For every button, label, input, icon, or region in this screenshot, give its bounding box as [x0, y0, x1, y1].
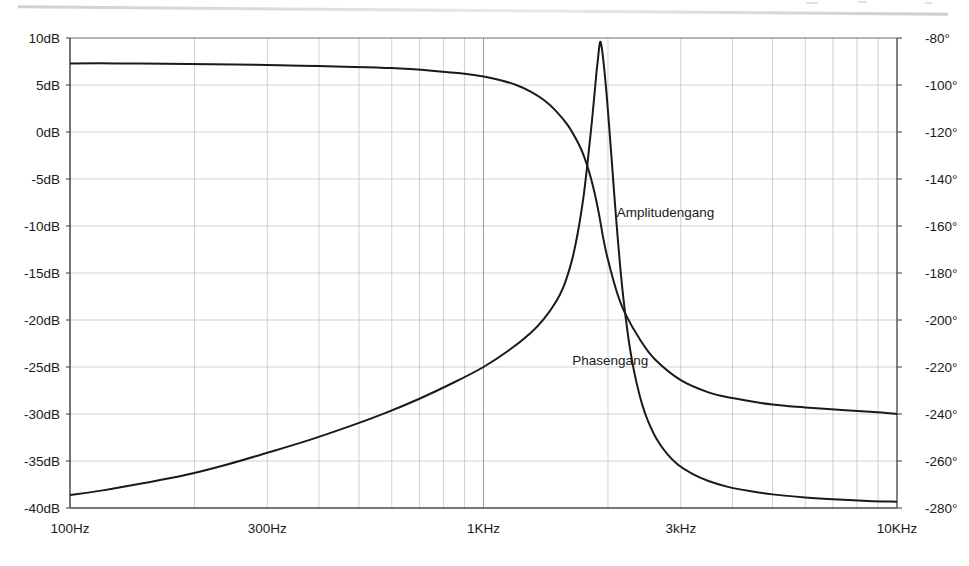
bode-plot-figure: 10dB5dB0dB-5dB-10dB-15dB-20dB-25dB-30dB-… — [0, 0, 969, 566]
right-tick-label: -260° — [925, 454, 957, 469]
x-tick-label: 3kHz — [665, 521, 696, 536]
left-tick-label: -20dB — [24, 313, 60, 328]
left-tick-label: 5dB — [36, 78, 60, 93]
left-tick-label: -25dB — [24, 360, 60, 375]
left-tick-label: 0dB — [36, 125, 60, 140]
right-tick-label: -200° — [925, 313, 957, 328]
right-tick-label: -180° — [925, 266, 957, 281]
left-tick-label: -40dB — [24, 501, 60, 516]
right-tick-label: -80° — [925, 31, 950, 46]
x-tick-label: 300Hz — [248, 521, 287, 536]
right-tick-label: -160° — [925, 219, 957, 234]
x-tick-label: 10KHz — [877, 521, 918, 536]
x-tick-label: 100Hz — [50, 521, 89, 536]
left-tick-label: 10dB — [28, 31, 60, 46]
left-tick-label: -15dB — [24, 266, 60, 281]
left-tick-label: -5dB — [31, 172, 60, 187]
right-tick-label: -220° — [925, 360, 957, 375]
right-tick-label: -240° — [925, 407, 957, 422]
left-tick-label: -30dB — [24, 407, 60, 422]
right-tick-label: -280° — [925, 501, 957, 516]
amplitude-curve-label: Amplitudengang — [617, 205, 715, 220]
right-tick-label: -120° — [925, 125, 957, 140]
x-tick-label: 1KHz — [467, 521, 500, 536]
x-axis-tick-labels: 100Hz300Hz1KHz3kHz10KHz — [50, 521, 917, 536]
left-tick-label: -10dB — [24, 219, 60, 234]
left-axis-tick-labels: 10dB5dB0dB-5dB-10dB-15dB-20dB-25dB-30dB-… — [24, 31, 60, 516]
phase-curve-label: Phasengang — [572, 353, 648, 368]
right-tick-label: -140° — [925, 172, 957, 187]
bode-plot-canvas: 10dB5dB0dB-5dB-10dB-15dB-20dB-25dB-30dB-… — [0, 0, 969, 566]
right-axis-tick-labels: -80°-100°-120°-140°-160°-180°-200°-220°-… — [925, 31, 957, 516]
left-tick-label: -35dB — [24, 454, 60, 469]
right-tick-label: -100° — [925, 78, 957, 93]
